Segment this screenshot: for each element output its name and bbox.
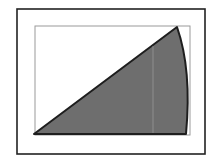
diagram-canvas xyxy=(0,0,212,163)
sector-wedge xyxy=(34,27,188,134)
